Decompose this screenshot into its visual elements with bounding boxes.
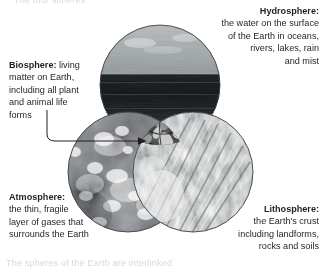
label-hydrosphere-line-3: rivers, lakes, rain — [193, 42, 319, 54]
label-lithosphere-heading: Lithosphere: — [204, 203, 319, 215]
label-lithosphere: Lithosphere: the Earth's crust including… — [204, 203, 319, 253]
label-atmosphere-heading: Atmosphere: — [9, 191, 121, 203]
label-lithosphere-line-2: including landforms, — [204, 228, 319, 240]
label-atmosphere-line-2: layer of gases that — [9, 216, 121, 228]
label-biosphere-line-3: and animal life — [9, 96, 113, 108]
label-hydrosphere-line-4: and mist — [193, 55, 319, 67]
label-hydrosphere-line-2: of the Earth in oceans, — [193, 30, 319, 42]
label-biosphere-heading: Biosphere: living — [9, 59, 113, 71]
label-hydrosphere-colon: : — [316, 6, 319, 16]
label-hydrosphere: Hydrosphere: the water on the surface of… — [193, 5, 319, 67]
label-atmosphere-colon: : — [62, 192, 65, 202]
label-atmosphere: Atmosphere: the thin, fragile layer of g… — [9, 191, 121, 241]
label-hydrosphere-heading: Hydrosphere: — [193, 5, 319, 17]
label-biosphere-line-4: forms — [9, 109, 113, 121]
label-lithosphere-term: Lithosphere — [264, 204, 316, 214]
cropped-caption-bottom: The spheres of the Earth are interlinked — [6, 258, 256, 268]
label-hydrosphere-term: Hydrosphere — [260, 6, 316, 16]
label-biosphere: Biosphere: living matter on Earth, inclu… — [9, 59, 113, 121]
label-atmosphere-term: Atmosphere — [9, 192, 62, 202]
diagram-page: The four spheres — [0, 0, 323, 270]
label-lithosphere-line-1: the Earth's crust — [204, 215, 319, 227]
label-biosphere-first-line-rest: living — [57, 60, 80, 70]
label-lithosphere-colon: : — [316, 204, 319, 214]
label-lithosphere-line-3: rocks and soils — [204, 240, 319, 252]
label-biosphere-line-2: including all plant — [9, 84, 113, 96]
label-biosphere-term: Biosphere — [9, 60, 53, 70]
label-atmosphere-line-3: surrounds the Earth — [9, 228, 121, 240]
label-atmosphere-line-1: the thin, fragile — [9, 203, 121, 215]
label-hydrosphere-line-1: the water on the surface — [193, 17, 319, 29]
label-biosphere-line-1: matter on Earth, — [9, 71, 113, 83]
